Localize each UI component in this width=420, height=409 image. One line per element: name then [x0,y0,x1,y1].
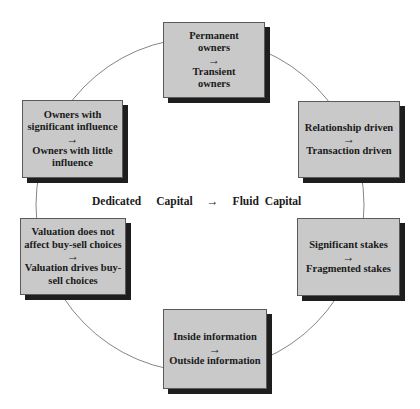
box-significant-to-fragmented-stakes: Significant stakes → Fragmented stakes [297,218,400,296]
center-from-word: Dedicated [92,195,141,207]
box-relationship-to-transaction-driven: Relationship driven → Transaction driven [298,101,400,178]
box-owner-influence: Owners with significant influence → Owne… [22,100,123,178]
box-valuation-buy-sell-choices: Valuation does not affect buy-sell choic… [20,218,126,295]
box-to-line: Owners with little [32,145,113,158]
box-to-line: owners [198,78,230,91]
right-arrow-icon: → [343,134,355,145]
box-permanent-to-transient-owners: Permanent owners → Transient owners [163,22,265,98]
center-to-word: Capital [265,195,301,207]
center-label-dedicated-to-fluid-capital: Dedicated Capital → Fluid Capital [92,193,332,209]
right-arrow-icon: → [343,252,355,263]
right-arrow-icon: → [67,134,79,145]
box-to-line: Outside information [169,355,260,368]
box-inside-to-outside-information: Inside information → Outside information [163,309,267,389]
box-to-line: Valuation drives buy- [25,262,121,275]
box-to-line: Transaction driven [306,145,391,158]
right-arrow-icon: → [67,251,79,262]
right-arrow-icon: → [209,344,221,355]
center-to-word: Fluid [233,195,259,207]
center-from-word: Capital [156,195,192,207]
box-from-line: Permanent [189,30,239,43]
box-to-line: Fragmented stakes [306,263,391,276]
right-arrow-icon: → [207,194,219,209]
right-arrow-icon: → [208,55,220,66]
box-to-line: influence [52,157,93,170]
box-from-line: Valuation does not [31,226,114,239]
box-to-line: sell choices [48,275,97,288]
box-to-line: Transient [193,66,236,79]
box-from-line: Owners with [44,109,101,122]
